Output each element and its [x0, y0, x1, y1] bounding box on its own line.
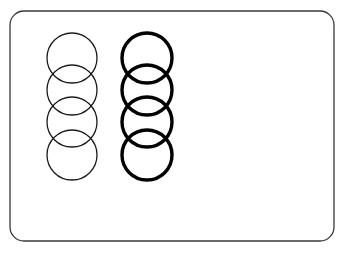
figure-container — [0, 0, 348, 257]
circles-figure — [0, 0, 348, 257]
